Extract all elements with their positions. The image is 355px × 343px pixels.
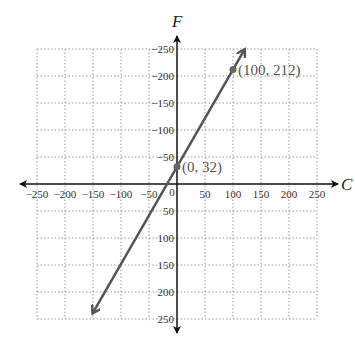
y-tick-label: −50 [157, 151, 175, 163]
y-tick-label: 200 [158, 286, 175, 298]
y-tick-label: −100 [151, 124, 174, 136]
data-point-label: (100, 212) [238, 62, 301, 79]
chart: CF −250−200−150−100−50050100150200250250… [0, 0, 355, 343]
x-tick-label: 50 [200, 188, 212, 200]
x-tick-label: −100 [110, 188, 133, 200]
data-point [174, 163, 181, 170]
data-point [230, 66, 237, 73]
y-tick-label: 250 [158, 313, 175, 325]
x-tick-label: −150 [82, 188, 105, 200]
x-tick-label: 250 [309, 188, 326, 200]
data-points: (0, 32)(100, 212) [174, 62, 301, 176]
x-tick-label: 150 [253, 188, 270, 200]
x-tick-label: 200 [281, 188, 298, 200]
y-axis-label: F [171, 12, 183, 31]
y-tick-label: −250 [151, 43, 174, 55]
x-axis-label: C [341, 175, 353, 194]
y-tick-label: −150 [151, 97, 174, 109]
y-tick-label: −200 [151, 70, 174, 82]
y-tick-label: 50 [163, 205, 175, 217]
data-point-label: (0, 32) [182, 159, 222, 176]
x-tick-label: 100 [225, 188, 242, 200]
x-tick-label: −250 [26, 188, 49, 200]
x-tick-label: −200 [54, 188, 77, 200]
y-tick-label: 100 [158, 232, 175, 244]
data-line [93, 50, 244, 312]
x-tick-label: −50 [140, 188, 158, 200]
y-tick-label: 150 [158, 259, 175, 271]
x-tick-label: 0 [169, 186, 175, 198]
